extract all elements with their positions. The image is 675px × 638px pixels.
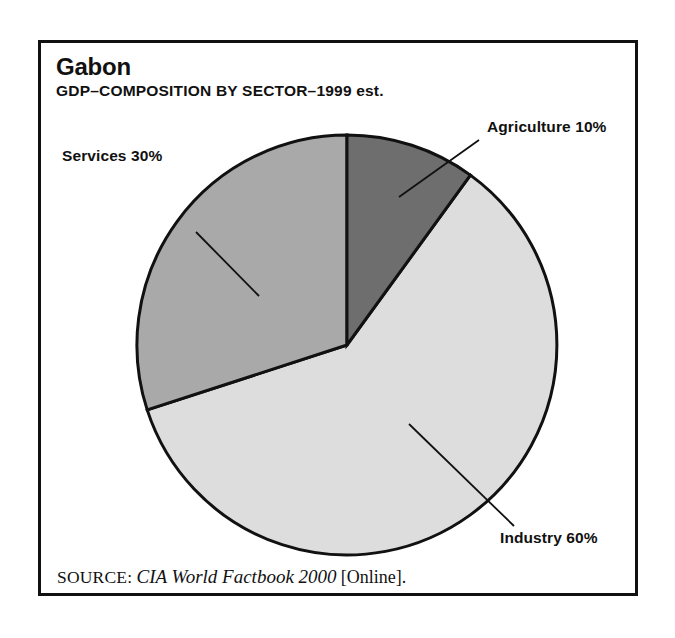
pie-label-agriculture: Agriculture 10% [487, 118, 607, 136]
source-prefix-label: SOURCE: [57, 567, 132, 587]
pie-label-industry: Industry 60% [500, 529, 598, 547]
pie-label-services: Services 30% [62, 147, 162, 165]
gabon-gdp-pie-figure: Gabon GDP–COMPOSITION BY SECTOR–1999 est… [0, 0, 675, 638]
source-medium-label: [Online]. [341, 567, 406, 587]
title-block: Gabon GDP–COMPOSITION BY SECTOR–1999 est… [56, 54, 476, 100]
source-citation: SOURCE: CIA World Factbook 2000 [Online]… [57, 566, 406, 588]
source-work-title: CIA World Factbook 2000 [137, 566, 337, 587]
page-title: Gabon [56, 54, 476, 79]
chart-subtitle: GDP–COMPOSITION BY SECTOR–1999 est. [56, 82, 476, 100]
